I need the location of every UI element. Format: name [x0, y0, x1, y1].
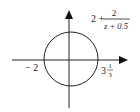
function-numerator: 2: [112, 8, 117, 18]
left-intercept-label: − 2: [25, 62, 38, 73]
right-intercept-whole: 3: [101, 65, 106, 76]
real-axis-arrowhead: [119, 56, 128, 64]
right-intercept-denominator: 3: [108, 71, 111, 78]
function-label: 2 + 2 z + 0.5: [91, 8, 130, 31]
complex-plane-diagram: 2 + 2 z + 0.5 − 2 3 1 3: [0, 0, 140, 112]
right-intercept-numerator: 1: [108, 62, 111, 69]
circle-contour: [44, 32, 98, 86]
function-prefix: 2 +: [91, 13, 105, 24]
imaginary-axis-arrowhead: [65, 10, 73, 19]
function-denominator: z + 0.5: [103, 21, 128, 31]
right-intercept-label: 3 1 3: [101, 62, 113, 78]
